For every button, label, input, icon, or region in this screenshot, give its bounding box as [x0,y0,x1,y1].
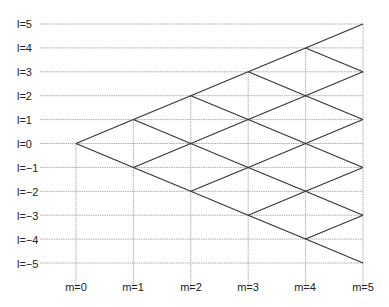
lattice-edge-up [306,215,363,239]
row-label: l=−4 [17,234,38,246]
lattice-diagram: l=5 l=4 l=3 l=2 l=1 l=0 l=−1 l=−2 l=−3 l… [0,0,389,307]
row-label: l=−3 [17,210,38,222]
lattice-edge-up [306,120,363,144]
lattice-edge-down [306,96,363,120]
lattice-edge-up [191,72,248,96]
col-label: m=1 [122,281,144,293]
lattice-edge-up [191,167,248,191]
row-label: l=−5 [17,258,38,270]
col-label: m=3 [237,281,259,293]
lattice-edge-down [191,144,248,168]
row-label: l=2 [17,90,32,102]
lattice-edge-down [248,215,305,239]
row-label: l=4 [17,42,32,54]
row-label: l=3 [17,66,32,78]
lattice-edge-up [248,191,305,215]
col-label: m=5 [352,281,374,293]
lattice-edge-up [248,48,305,72]
lattice-edge-down [133,120,190,144]
lattice-edge-down [133,167,190,191]
lattice-edge-up [248,144,305,168]
col-label: m=4 [294,281,316,293]
lattice-edge-up [306,72,363,96]
lattice-edge-down [191,191,248,215]
lattice-edge-down [248,72,305,96]
lattice-edge-down [248,167,305,191]
lattice-edge-down [306,191,363,215]
lattice-edge-down [306,144,363,168]
horizontal-gridlines [40,24,363,263]
row-label: l=5 [17,18,32,30]
lattice-edge-down [248,120,305,144]
lattice-edge-down [191,96,248,120]
lattice-edge-up [306,24,363,48]
lattice-edge-up [248,96,305,120]
lattice-edge-up [191,120,248,144]
row-label: l=1 [17,114,32,126]
col-label: m=0 [65,281,87,293]
vertical-gridlines [76,24,363,290]
row-label: l=0 [17,138,32,150]
lattice-edge-up [133,144,190,168]
lattice-edge-down [306,239,363,263]
lattice-edge-down [76,144,133,168]
lattice-edge-up [133,96,190,120]
column-labels: m=0 m=1 m=2 m=3 m=4 m=5 [65,281,374,293]
row-label: l=−2 [17,186,38,198]
col-label: m=2 [180,281,202,293]
lattice-edge-up [306,167,363,191]
row-labels: l=5 l=4 l=3 l=2 l=1 l=0 l=−1 l=−2 l=−3 l… [17,18,38,270]
lattice-edge-up [76,120,133,144]
row-label: l=−1 [17,162,38,174]
lattice-edge-down [306,48,363,72]
